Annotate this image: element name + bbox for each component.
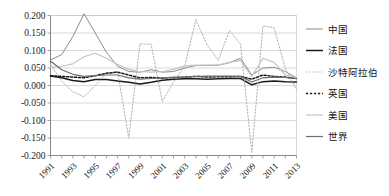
legend-label-3: 英国 [328, 88, 348, 99]
y-tick-label: -0.100 [21, 116, 46, 126]
x-tick-label: 2011 [260, 161, 280, 181]
x-axis-tick-labels: 1991199319951997199920012003200520072009… [37, 160, 303, 180]
chart-legend: 中国法国沙特阿拉伯英国美国世界 [306, 24, 378, 143]
series-line-4 [51, 53, 297, 78]
x-tick-label: 2001 [148, 161, 168, 181]
x-tick-label: 2009 [238, 160, 258, 180]
y-tick-label: 0.000 [24, 81, 46, 91]
y-tick-label: 0.100 [24, 46, 46, 56]
line-chart: 0.2000.1500.1000.0500.000-0.050-0.100-0.… [0, 0, 389, 196]
chart-container: 0.2000.1500.1000.0500.000-0.050-0.100-0.… [0, 0, 389, 196]
y-tick-label: 0.200 [24, 11, 46, 21]
legend-label-4: 美国 [328, 110, 348, 121]
legend-label-0: 中国 [328, 24, 348, 35]
gridlines [48, 16, 297, 156]
x-tick-label: 1997 [104, 160, 124, 180]
x-tick-label: 2005 [193, 160, 213, 180]
x-tick-label: 1991 [37, 161, 57, 181]
x-tick-label: 2007 [216, 160, 236, 180]
y-tick-label: -0.150 [21, 133, 46, 143]
y-tick-label: 0.050 [24, 63, 46, 73]
legend-label-1: 法国 [328, 45, 348, 56]
y-tick-label: -0.050 [21, 98, 46, 108]
y-axis-tick-labels: 0.2000.1500.1000.0500.000-0.050-0.100-0.… [21, 11, 46, 161]
x-tick-label: 1995 [81, 160, 101, 180]
x-tick-label: 1999 [126, 160, 146, 180]
y-tick-label: -0.200 [21, 151, 46, 161]
y-tick-label: 0.150 [24, 28, 46, 38]
x-tick-label: 1993 [59, 160, 79, 180]
x-tick-label: 2003 [171, 160, 191, 180]
series-line-2 [51, 20, 297, 153]
data-series [51, 14, 297, 153]
x-tick-label: 2013 [283, 160, 303, 180]
legend-label-5: 世界 [328, 131, 348, 142]
legend-label-2: 沙特阿拉伯 [328, 67, 378, 78]
